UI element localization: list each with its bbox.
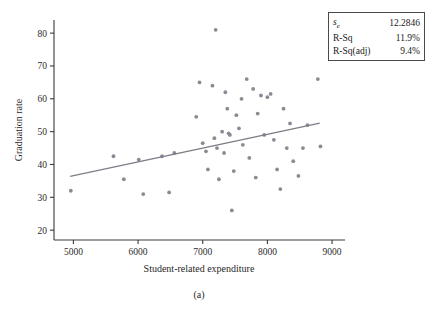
data-point — [225, 107, 229, 111]
data-point — [291, 159, 295, 163]
data-point — [212, 136, 216, 140]
x-tick-label: 6000 — [129, 247, 148, 257]
y-tick-label: 60 — [38, 94, 48, 104]
data-point — [69, 189, 73, 193]
data-point — [269, 92, 273, 96]
data-point — [288, 122, 292, 126]
x-tick-label: 9000 — [323, 247, 342, 257]
data-point — [259, 94, 263, 98]
data-point — [122, 177, 126, 181]
data-points-group — [69, 28, 322, 212]
y-ticks-group: 20304050607080 — [38, 29, 55, 236]
data-point — [316, 77, 320, 81]
data-point — [285, 146, 289, 150]
data-point — [282, 107, 286, 111]
data-point — [217, 177, 221, 181]
data-point — [297, 174, 301, 178]
data-point — [206, 168, 210, 172]
data-point — [194, 115, 198, 119]
data-point — [223, 90, 227, 94]
data-point — [254, 176, 258, 180]
data-point — [247, 156, 251, 160]
x-tick-label: 5000 — [64, 247, 83, 257]
data-point — [232, 169, 236, 173]
data-point — [251, 87, 255, 91]
data-point — [240, 97, 244, 101]
y-tick-label: 70 — [38, 61, 48, 71]
x-tick-label: 7000 — [193, 247, 212, 257]
data-point — [256, 112, 260, 116]
data-point — [211, 84, 215, 88]
y-axis-title: Graduation rate — [13, 98, 24, 161]
figure-caption: (a) — [193, 289, 204, 301]
data-point — [234, 113, 238, 117]
data-point — [319, 145, 323, 149]
statistics-table: se12.2846R-Sq11.9%R-Sq(adj)9.4% — [329, 15, 424, 58]
data-point — [167, 190, 171, 194]
data-point — [112, 154, 116, 158]
regression-line — [70, 123, 320, 176]
statistics-row: R-Sq(adj)9.4% — [329, 45, 424, 58]
data-point — [266, 95, 270, 99]
data-point — [214, 28, 218, 32]
y-tick-label: 30 — [38, 193, 48, 203]
data-point — [241, 143, 245, 147]
statistics-label: se — [329, 15, 380, 32]
data-point — [201, 141, 205, 145]
data-point — [237, 126, 241, 130]
y-tick-label: 50 — [38, 127, 48, 137]
statistics-row: se12.2846 — [329, 15, 424, 32]
statistics-table-body: se12.2846R-Sq11.9%R-Sq(adj)9.4% — [329, 15, 424, 58]
data-point — [141, 192, 145, 196]
data-point — [278, 187, 282, 191]
x-ticks-group: 50006000700080009000 — [64, 240, 342, 257]
data-point — [220, 130, 224, 134]
statistics-value: 11.9% — [380, 32, 424, 45]
x-axis-title: Student-related expenditure — [144, 263, 255, 274]
statistics-value: 12.2846 — [380, 15, 424, 32]
data-point — [245, 77, 249, 81]
data-point — [215, 146, 219, 150]
y-tick-label: 20 — [38, 226, 48, 236]
data-point — [222, 151, 226, 155]
data-point — [301, 146, 305, 150]
figure-container: 20304050607080 50006000700080009000 Grad… — [0, 0, 434, 312]
statistics-row: R-Sq11.9% — [329, 32, 424, 45]
statistics-box: se12.2846R-Sq11.9%R-Sq(adj)9.4% — [328, 12, 425, 61]
y-tick-label: 80 — [38, 29, 48, 39]
data-point — [272, 138, 276, 142]
statistics-label: R-Sq — [329, 32, 380, 45]
statistics-value: 9.4% — [380, 45, 424, 58]
y-tick-label: 40 — [38, 160, 48, 170]
data-point — [275, 168, 279, 172]
data-point — [228, 133, 232, 137]
regression-line-group — [70, 123, 320, 176]
data-point — [230, 209, 234, 213]
axes-group — [54, 20, 345, 240]
data-point — [204, 149, 208, 153]
statistics-label: R-Sq(adj) — [329, 45, 380, 58]
x-tick-label: 8000 — [258, 247, 277, 257]
data-point — [198, 80, 202, 84]
